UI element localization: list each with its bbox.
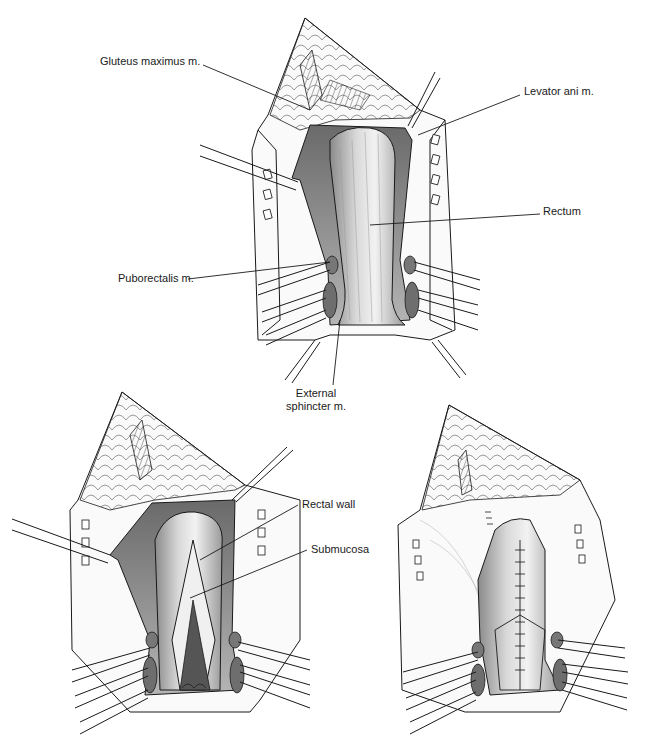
label-submucosa: Submucosa (311, 543, 369, 556)
label-levator-ani: Levator ani m. (524, 85, 594, 98)
panel-top (188, 18, 540, 385)
label-external-sphincter-line2: sphincter m. (276, 400, 356, 413)
panel-bottom-left (12, 392, 310, 734)
panel-bottom-right (398, 405, 628, 734)
label-puborectalis: Puborectalis m. (118, 272, 194, 285)
label-gluteus-maximus: Gluteus maximus m. (100, 55, 200, 68)
label-external-sphincter-line1: External (276, 387, 356, 400)
illustration-artwork (0, 0, 651, 746)
label-rectum: Rectum (543, 205, 581, 218)
surgical-illustration: Gluteus maximus m. Levator ani m. Rectum… (0, 0, 651, 746)
label-external-sphincter: External sphincter m. (276, 387, 356, 413)
label-rectal-wall: Rectal wall (302, 498, 355, 511)
